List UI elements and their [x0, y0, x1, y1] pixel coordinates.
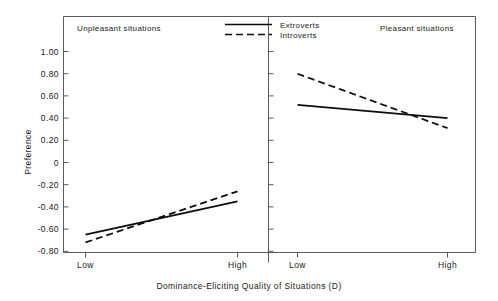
y-tick-labels: 1.00 0.80 0.60 0.40 0.20 0 -0.20 -0.40 -…	[38, 47, 59, 257]
x-axis-title: Dominance-Eliciting Quality of Situation…	[156, 281, 341, 291]
panel-title-pleasant: Pleasant situations	[380, 24, 454, 33]
x-axis-ticks	[86, 253, 448, 258]
legend-label-introverts: Introverts	[280, 31, 317, 40]
y-tick-label: 1.00	[41, 47, 59, 57]
legend: Extroverts Introverts	[225, 21, 320, 40]
x-tick-label-left-low: Low	[77, 260, 94, 270]
x-tick-label-right-low: Low	[289, 260, 306, 270]
series-line-introverts-pleasant	[298, 74, 448, 128]
panel-title-unpleasant: Unpleasant situations	[77, 24, 161, 33]
series-line-extroverts-unpleasant	[86, 201, 238, 234]
y-axis-title: Preference	[23, 129, 33, 175]
x-tick-labels: Low High Low High	[77, 260, 457, 270]
x-tick-label-left-high: High	[228, 260, 247, 270]
chart-canvas: 1.00 0.80 0.60 0.40 0.20 0 -0.20 -0.40 -…	[0, 0, 498, 301]
x-tick-label-right-high: High	[438, 260, 457, 270]
y-tick-label: 0.20	[41, 135, 59, 145]
y-tick-label: -0.40	[38, 202, 59, 212]
y-tick-label: -0.60	[38, 224, 59, 234]
y-tick-label: 0.80	[41, 69, 59, 79]
series-line-introverts-unpleasant	[86, 191, 238, 242]
y-tick-label: 0	[54, 158, 59, 168]
y-tick-label: 0.60	[41, 91, 59, 101]
series-line-extroverts-pleasant	[298, 105, 448, 118]
chart-figure: 1.00 0.80 0.60 0.40 0.20 0 -0.20 -0.40 -…	[0, 0, 498, 301]
legend-label-extroverts: Extroverts	[280, 21, 320, 30]
divider-ticks	[269, 52, 274, 252]
y-axis-ticks	[64, 52, 69, 252]
y-tick-label: 0.40	[41, 113, 59, 123]
data-series-layer	[86, 74, 448, 243]
y-tick-label: -0.80	[38, 246, 59, 256]
y-tick-label: -0.20	[38, 180, 59, 190]
